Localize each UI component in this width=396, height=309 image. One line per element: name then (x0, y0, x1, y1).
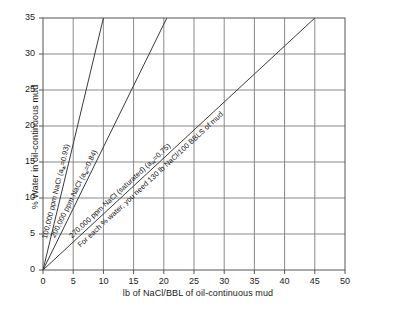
chart-plot-area: 100,000 ppm NaCl (aw=0.93)200,000 ppm Na… (0, 0, 396, 309)
x-tick-label: 50 (330, 276, 360, 286)
x-tick-label: 20 (149, 276, 179, 286)
chart-figure: 100,000 ppm NaCl (aw=0.93)200,000 ppm Na… (0, 0, 396, 309)
x-tick-label: 35 (239, 276, 269, 286)
y-tick-label: 5 (9, 228, 35, 238)
x-tick-label: 25 (179, 276, 209, 286)
x-axis-title: lb of NaCl/BBL of oil-continuous mud (0, 288, 396, 298)
y-tick-label: 25 (9, 84, 35, 94)
y-tick-label: 35 (9, 12, 35, 22)
x-tick-label: 10 (88, 276, 118, 286)
y-tick-label: 15 (9, 156, 35, 166)
x-tick-label: 45 (300, 276, 330, 286)
x-axis-ticks (43, 270, 345, 274)
x-tick-label: 0 (28, 276, 58, 286)
x-tick-label: 15 (119, 276, 149, 286)
x-tick-label: 5 (58, 276, 88, 286)
y-tick-label: 10 (9, 192, 35, 202)
y-tick-label: 30 (9, 48, 35, 58)
x-tick-label: 30 (209, 276, 239, 286)
y-tick-label: 20 (9, 120, 35, 130)
x-tick-label: 40 (270, 276, 300, 286)
y-tick-label: 0 (9, 264, 35, 274)
